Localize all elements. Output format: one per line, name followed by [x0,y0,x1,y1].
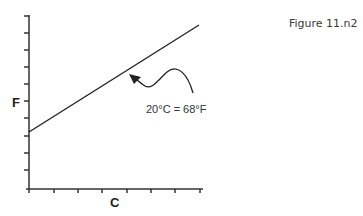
x-axis-label: C [110,195,120,210]
chart: F C 20°C = 68°F [0,0,363,216]
y-axis-label: F [12,95,20,110]
annotation-label: 20°C = 68°F [146,103,207,115]
y-axis [24,15,29,189]
x-axis [26,189,203,193]
annotation-arrow-curve [133,69,193,93]
figure-label: Figure 11.n2 [289,17,358,30]
data-line [29,25,199,132]
